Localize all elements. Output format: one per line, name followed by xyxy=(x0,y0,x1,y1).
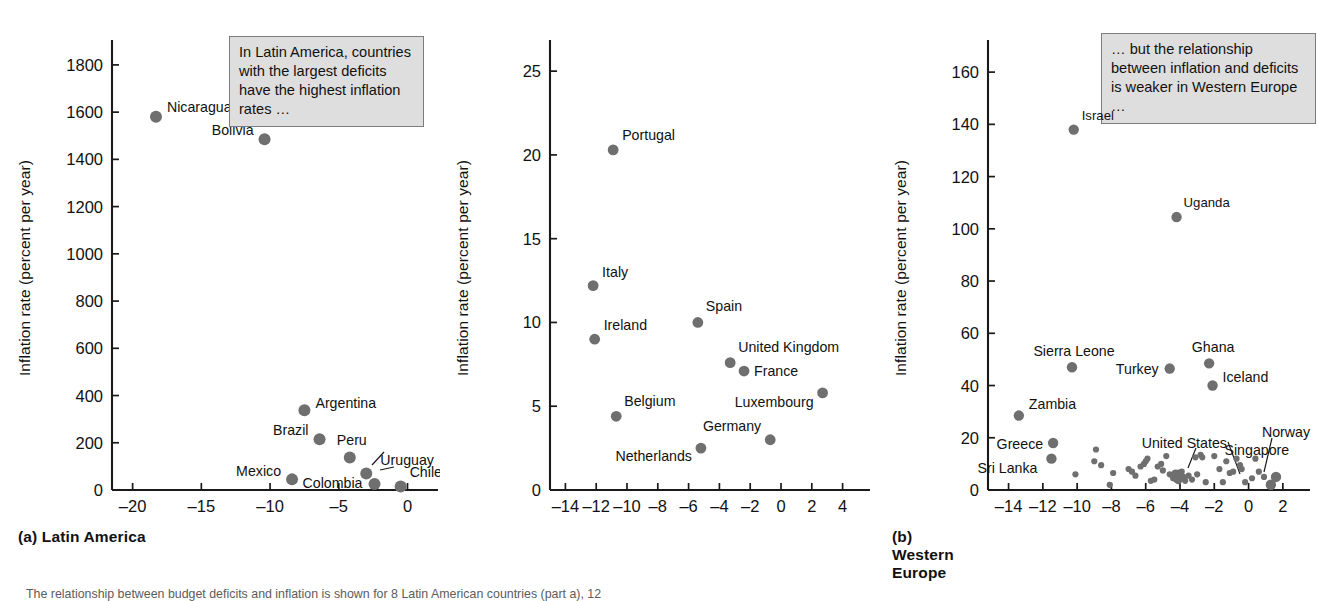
labeled-data-point: Iceland xyxy=(1207,369,1268,391)
y-tick-label: 140 xyxy=(951,115,979,133)
data-point xyxy=(1172,470,1179,477)
data-point xyxy=(1091,458,1097,464)
data-point xyxy=(611,411,622,422)
data-point-label: Germany xyxy=(703,418,762,434)
data-point xyxy=(692,317,703,328)
x-tick-label: –5 xyxy=(330,497,348,515)
data-point xyxy=(259,133,271,145)
labeled-data-point: Belgium xyxy=(611,393,676,421)
data-point-label: Portugal xyxy=(622,127,675,143)
labeled-data-point: Israel xyxy=(1069,108,1115,135)
data-point-label: United Kingdom xyxy=(738,339,839,355)
data-point-label: Singapore xyxy=(1225,442,1290,458)
data-point xyxy=(1046,453,1056,463)
data-point xyxy=(1249,475,1255,481)
x-tick-label: –12 xyxy=(1029,497,1057,515)
labeled-data-point: Brazil xyxy=(273,422,325,445)
data-point xyxy=(395,480,407,492)
data-point xyxy=(1175,477,1182,484)
data-point-label: Netherlands xyxy=(615,448,692,464)
x-tick-label: –10 xyxy=(256,497,284,515)
labeled-data-point: Greece xyxy=(997,436,1059,452)
data-point xyxy=(1199,454,1205,460)
data-point-label: Ghana xyxy=(1192,339,1235,355)
data-point-label: Sri Lanka xyxy=(977,460,1037,476)
labeled-data-point: Turkey xyxy=(1116,361,1175,377)
data-point xyxy=(725,357,736,368)
y-tick-label: 200 xyxy=(75,434,103,452)
data-point xyxy=(1230,469,1236,475)
data-point xyxy=(1204,358,1214,368)
data-point xyxy=(344,451,356,463)
labeled-data-point: France xyxy=(739,363,799,379)
data-point xyxy=(1223,458,1229,464)
labeled-data-point: Germany xyxy=(703,418,776,445)
labeled-data-point: Netherlands xyxy=(615,443,706,464)
labeled-data-point: Luxembourg xyxy=(735,387,828,409)
x-tick-label: –8 xyxy=(1102,497,1120,515)
panel-western-europe: 0510152025–14–12–10–8–6–4–2024Government… xyxy=(440,0,880,601)
data-point xyxy=(1211,453,1217,459)
y-tick-label: 1400 xyxy=(66,150,103,168)
data-point xyxy=(1203,479,1209,485)
x-tick-label: –6 xyxy=(679,497,697,515)
data-point xyxy=(1158,461,1164,467)
data-point xyxy=(1163,453,1169,459)
labeled-data-point: Spain xyxy=(692,298,742,327)
labeled-data-point: Sri Lanka xyxy=(977,453,1056,475)
data-point xyxy=(1171,212,1181,222)
labeled-data-point: Mexico xyxy=(236,463,298,485)
data-point xyxy=(817,387,828,398)
data-point xyxy=(1220,479,1226,485)
data-point-label: Turkey xyxy=(1116,361,1160,377)
x-tick-label: 2 xyxy=(807,497,816,515)
data-point-label: Norway xyxy=(1262,424,1311,440)
data-point-label: Mexico xyxy=(236,463,281,479)
y-tick-label: 25 xyxy=(523,62,541,80)
data-point xyxy=(1093,446,1099,452)
data-point-label: Italy xyxy=(602,264,629,280)
x-tick-label: 0 xyxy=(776,497,785,515)
data-point-label: Nicaragua xyxy=(167,99,232,115)
x-tick-label: –14 xyxy=(552,497,580,515)
y-tick-label: 0 xyxy=(970,481,979,499)
labeled-data-point: Zambia xyxy=(1014,396,1077,421)
y-tick-label: 0 xyxy=(532,481,541,499)
x-tick-label: –2 xyxy=(741,497,759,515)
y-tick-label: 120 xyxy=(951,168,979,186)
y-tick-label: 40 xyxy=(961,377,979,395)
x-tick-label: –2 xyxy=(1205,497,1223,515)
data-point xyxy=(1107,482,1113,488)
y-axis-title: Inflation rate (percent per year) xyxy=(454,160,471,376)
data-point xyxy=(1144,456,1150,462)
data-point-label: Sierra Leone xyxy=(1033,343,1114,359)
data-point xyxy=(1189,476,1195,482)
data-point xyxy=(765,434,776,445)
y-tick-label: 15 xyxy=(523,230,541,248)
data-point-label: Iceland xyxy=(1223,369,1269,385)
data-point xyxy=(608,144,619,155)
data-point xyxy=(1242,479,1248,485)
labeled-data-point: Ghana xyxy=(1192,339,1235,368)
y-tick-label: 60 xyxy=(961,324,979,342)
data-point-label: United States xyxy=(1142,435,1227,451)
data-point xyxy=(1069,124,1079,134)
data-point xyxy=(1256,469,1262,475)
labeled-data-point: Singapore xyxy=(1225,442,1290,490)
data-point xyxy=(1072,471,1078,477)
y-tick-label: 800 xyxy=(75,292,103,310)
y-axis-title: Inflation rate (percent per year) xyxy=(16,160,33,376)
x-tick-label: –12 xyxy=(582,497,610,515)
x-tick-label: –15 xyxy=(188,497,216,515)
labeled-data-point: Nicaragua xyxy=(150,99,232,123)
data-point xyxy=(1207,380,1217,390)
data-point xyxy=(369,478,381,490)
y-tick-label: 600 xyxy=(75,339,103,357)
data-point-label: Peru xyxy=(337,432,367,448)
callout-latin-america: In Latin America, countries with the lar… xyxy=(229,36,424,127)
x-tick-label: 0 xyxy=(1244,497,1253,515)
scatter-plot-other-countries: 020406080100120140160–14–12–10–8–6–4–202… xyxy=(880,0,1318,520)
data-point xyxy=(1110,470,1116,476)
data-point xyxy=(1216,466,1222,472)
labeled-data-point: Chile xyxy=(395,464,440,492)
